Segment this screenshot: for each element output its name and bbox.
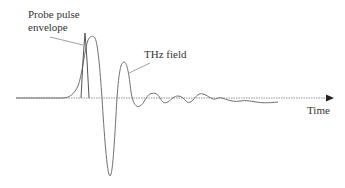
thz-diagram: Probe pulse envelope THz field Time (0, 0, 345, 188)
probe-pulse-envelope (81, 33, 89, 98)
probe-label-line2: envelope (28, 21, 68, 33)
time-axis-arrow-icon (326, 95, 334, 102)
probe-label-line1: Probe pulse (28, 8, 80, 20)
thz-label: THz field (144, 48, 187, 60)
time-axis-label: Time (307, 104, 330, 116)
probe-leader-line (50, 37, 83, 45)
thz-leader-line (129, 63, 150, 73)
